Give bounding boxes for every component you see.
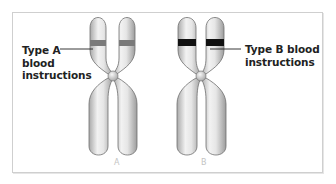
chromosome-a (89, 18, 137, 156)
chromosome-diagram (0, 0, 336, 184)
chromatid-a-left-lower (89, 78, 113, 155)
gene-band-b-right (206, 39, 224, 46)
gene-band-b-left (178, 39, 196, 46)
chromatid-b-left-lower (177, 78, 201, 155)
type-a-label: Type A blood instructions (22, 44, 92, 82)
chromosome-a-caption: A (114, 158, 119, 167)
type-b-label-line: Type B blood (245, 43, 320, 56)
type-b-label: Type B blood instructions (245, 43, 320, 68)
chromosome-b-caption: B (201, 158, 207, 167)
chromatid-b-right-lower (201, 78, 226, 155)
type-a-label-line: instructions (22, 69, 92, 82)
chromosome-b (177, 18, 226, 156)
type-a-label-line: blood (22, 57, 92, 70)
gene-band-a-right (119, 40, 135, 46)
gene-band-a-left (90, 40, 106, 46)
type-a-label-line: Type A (22, 44, 92, 57)
chromatid-a-right-lower (113, 78, 137, 155)
type-b-label-line: instructions (245, 56, 320, 69)
centromere-b (196, 71, 206, 81)
centromere-a (108, 71, 118, 81)
